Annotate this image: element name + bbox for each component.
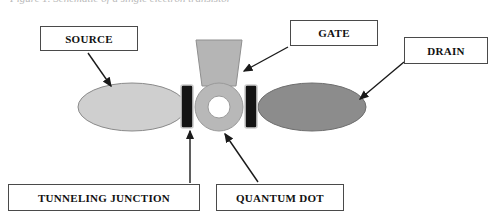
gate-electrode <box>196 40 242 86</box>
label-tunneling-junction: TUNNELING JUNCTION <box>8 184 200 211</box>
arrow-drain <box>360 62 404 99</box>
figure-canvas: Figure 1. Schematic of a single electron… <box>0 0 491 224</box>
arrow-quantum-dot <box>225 134 258 182</box>
drain-electrode <box>258 83 366 131</box>
arrow-source <box>88 53 111 86</box>
source-electrode <box>78 83 186 131</box>
right-tunneling-barrier <box>245 85 257 128</box>
label-source: SOURCE <box>40 26 138 51</box>
label-quantum-dot: QUANTUM DOT <box>216 184 344 211</box>
quantum-dot-hole <box>208 96 230 118</box>
left-tunneling-barrier <box>181 85 193 128</box>
label-drain: DRAIN <box>404 37 488 64</box>
arrow-gate <box>244 47 288 71</box>
label-gate: GATE <box>290 20 378 46</box>
